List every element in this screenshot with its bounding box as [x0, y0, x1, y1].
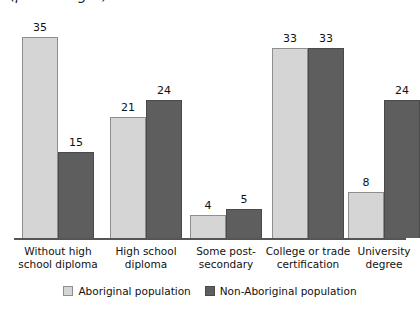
- bar-value-label: 5: [241, 194, 248, 205]
- bar-value-label: 33: [319, 33, 333, 44]
- bar-value-label: 33: [283, 33, 297, 44]
- bar-rect: [272, 48, 308, 238]
- bar-value-label: 8: [363, 177, 370, 188]
- legend-swatch-icon-non-aboriginal: [205, 286, 215, 296]
- bar-aboriginal[interactable]: 4: [190, 10, 226, 238]
- bar-non-aboriginal[interactable]: 24: [384, 10, 420, 238]
- bar-value-label: 21: [121, 102, 135, 113]
- bar-rect: [348, 192, 384, 238]
- bar-non-aboriginal[interactable]: 24: [146, 10, 182, 238]
- bar-aboriginal[interactable]: 33: [272, 10, 308, 238]
- bar-group-bars: 3515: [22, 10, 94, 238]
- chart-title-text: (percentages): [10, 0, 410, 3]
- bar-value-label: 24: [395, 85, 409, 96]
- bar-group: 45: [190, 10, 262, 238]
- bar-value-label: 24: [157, 85, 171, 96]
- bar-value-label: 35: [33, 22, 47, 33]
- bar-group: 3333: [272, 10, 344, 238]
- bar-rect: [384, 100, 420, 238]
- x-axis-line: [14, 238, 406, 240]
- bar-rect: [308, 48, 344, 238]
- bar-group: 3515: [22, 10, 94, 238]
- bar-non-aboriginal[interactable]: 5: [226, 10, 262, 238]
- category-label-line: degree: [331, 258, 420, 271]
- legend-item-non-aboriginal[interactable]: Non-Aboriginal population: [205, 285, 357, 297]
- bar-rect: [110, 117, 146, 238]
- legend-swatch-icon-aboriginal: [63, 286, 73, 296]
- category-label-line: University: [331, 245, 420, 258]
- bar-group-bars: 3333: [272, 10, 344, 238]
- chart-legend: Aboriginal population Non-Aboriginal pop…: [0, 285, 420, 297]
- bar-non-aboriginal[interactable]: 33: [308, 10, 344, 238]
- bar-aboriginal[interactable]: 8: [348, 10, 384, 238]
- bar-value-label: 15: [69, 137, 83, 148]
- bar-group-bars: 2124: [110, 10, 182, 238]
- bar-rect: [226, 209, 262, 238]
- bar-rect: [190, 215, 226, 238]
- legend-label-non-aboriginal: Non-Aboriginal population: [220, 285, 357, 297]
- bar-group: 824: [348, 10, 420, 238]
- bar-group-bars: 824: [348, 10, 420, 238]
- legend-label-aboriginal: Aboriginal population: [78, 285, 190, 297]
- bar-group: 2124: [110, 10, 182, 238]
- category-label: Universitydegree: [331, 245, 420, 271]
- bar-rect: [58, 152, 94, 238]
- bar-chart: 35152124453333824 Aboriginal population …: [0, 9, 420, 310]
- bar-aboriginal[interactable]: 35: [22, 10, 58, 238]
- plot-area: 35152124453333824: [0, 9, 420, 239]
- bar-group-bars: 45: [190, 10, 262, 238]
- bar-rect: [146, 100, 182, 238]
- bar-rect: [22, 37, 58, 238]
- bar-non-aboriginal[interactable]: 15: [58, 10, 94, 238]
- bar-value-label: 4: [205, 200, 212, 211]
- bar-aboriginal[interactable]: 21: [110, 10, 146, 238]
- legend-item-aboriginal[interactable]: Aboriginal population: [63, 285, 190, 297]
- chart-title-cropped: (percentages): [0, 0, 420, 9]
